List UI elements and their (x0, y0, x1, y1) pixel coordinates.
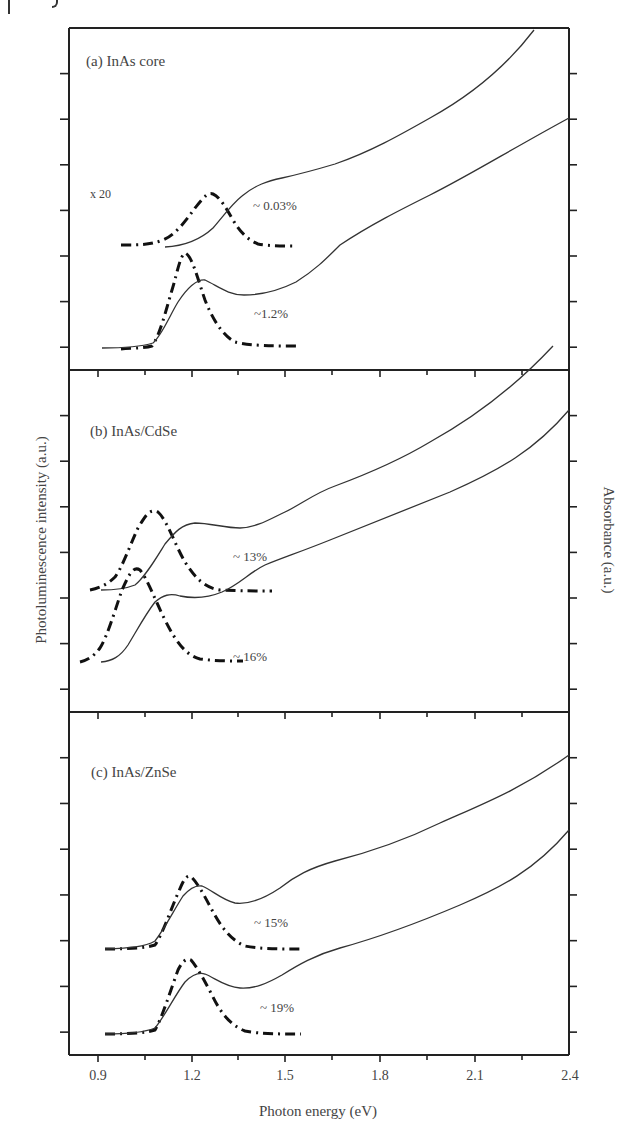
panel-c-qy-upper: ~ 15% (254, 915, 288, 930)
abs-a-lower (102, 118, 569, 348)
chart-canvas: (a) InAs core x 20 ~ 0.03% ~1.2% (b) InA… (0, 0, 643, 1142)
x-axis-label: Photon energy (eV) (259, 1103, 377, 1120)
x-tick-label: 1.5 (276, 1068, 294, 1083)
panel-a-qy-upper: ~ 0.03% (253, 198, 297, 213)
y-axis-label-left: Photoluminescence intensity (a.u.) (33, 436, 50, 643)
abs-c-upper (105, 755, 569, 949)
axes-frame (69, 28, 569, 1055)
x-tick-labels: 0.9 1.2 1.5 1.8 2.1 2.4 (89, 1068, 579, 1083)
panel-c-label: (c) InAs/ZnSe (91, 764, 177, 781)
panel-a-qy-lower: ~1.2% (254, 306, 288, 321)
pl-c-lower (105, 959, 301, 1034)
x-tick-label: 2.1 (466, 1068, 484, 1083)
x-tick-label: 1.2 (183, 1068, 201, 1083)
panel-a-curves (102, 30, 569, 349)
panel-c-curves (105, 755, 569, 1034)
x-tick-label: 1.8 (371, 1068, 389, 1083)
left-ticks (60, 74, 69, 1033)
x-tick-label: 2.4 (561, 1068, 579, 1083)
x-ticks (98, 370, 522, 1062)
panel-b-label: (b) InAs/CdSe (90, 423, 177, 440)
right-ticks (569, 74, 577, 1033)
pl-a-lower (121, 253, 298, 349)
y-axis-label-right: Absorbance (a.u.) (600, 486, 617, 593)
panel-c-qy-lower: ~ 19% (260, 1000, 294, 1015)
panel-a-label: (a) InAs core (86, 53, 165, 70)
panel-a-scale-note: x 20 (90, 187, 111, 201)
page-mark (8, 0, 10, 14)
abs-a-upper (165, 30, 534, 247)
pl-b-lower (80, 569, 243, 662)
abs-b-upper (101, 346, 553, 590)
panel-b-qy-lower: ~ 16% (233, 649, 267, 664)
panel-b-qy-upper: ~ 13% (233, 549, 267, 564)
panel-b-curves (80, 346, 569, 662)
figure: (a) InAs core x 20 ~ 0.03% ~1.2% (b) InA… (0, 0, 643, 1142)
x-tick-label: 0.9 (89, 1068, 107, 1083)
